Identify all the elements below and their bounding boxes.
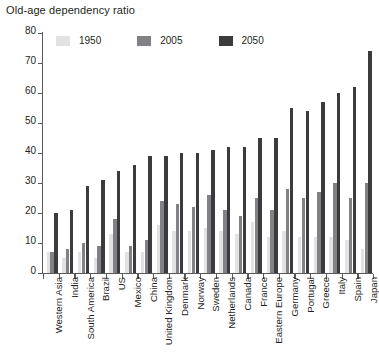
x-axis-label: Spain	[353, 277, 363, 302]
y-axis-tick-label: 10	[25, 236, 36, 246]
bar-group	[200, 33, 216, 273]
y-axis-tick	[38, 63, 42, 64]
y-axis-tick-label: 80	[25, 26, 36, 36]
y-axis-tick-label: 30	[25, 176, 36, 186]
x-axis-label: United Kingdom	[164, 277, 174, 345]
x-axis-label: Mexico	[133, 277, 143, 307]
x-axis-label: South America	[86, 277, 96, 339]
y-axis-tick-label: 60	[25, 86, 36, 96]
bar-2050	[164, 156, 167, 273]
bar-2050	[211, 150, 214, 273]
x-axis-label: Italy	[337, 277, 347, 295]
bar-2050	[274, 138, 277, 273]
bar-group	[247, 33, 263, 273]
bar-2050	[196, 153, 199, 273]
bar-group	[279, 33, 295, 273]
y-axis-tick	[38, 213, 42, 214]
y-axis-tick-label: 40	[25, 146, 36, 156]
y-axis-tick	[38, 273, 42, 274]
y-axis-tick-label: 20	[25, 206, 36, 216]
bar-2050	[54, 213, 57, 273]
bar-2050	[148, 156, 151, 273]
y-axis-tick-label: 50	[25, 116, 36, 126]
bar-2050	[180, 153, 183, 273]
bar-2050	[243, 147, 246, 273]
x-axis-label: Western Asia	[54, 277, 64, 333]
bar-group	[106, 33, 122, 273]
x-axis-label: Eastern Europe	[274, 277, 284, 344]
bar-2050	[321, 102, 324, 273]
x-axis-label: Brazil	[101, 277, 111, 301]
bar-2050	[117, 171, 120, 273]
bar-group	[357, 33, 373, 273]
bar-group	[184, 33, 200, 273]
x-axis-label: Japan	[369, 277, 379, 303]
bar-2050	[227, 147, 230, 273]
plot-area: 01020304050607080	[43, 33, 373, 273]
bar-group	[342, 33, 358, 273]
y-axis-tick	[38, 183, 42, 184]
bar-group	[169, 33, 185, 273]
bar-group	[90, 33, 106, 273]
y-axis-tick-label: 0	[30, 266, 36, 276]
x-axis-label: France	[259, 277, 269, 307]
x-axis-label: India	[70, 277, 80, 298]
bar-2050	[258, 138, 261, 273]
bar-2050	[290, 108, 293, 273]
bar-group	[216, 33, 232, 273]
x-axis-label: Greece	[321, 277, 331, 308]
bar-2050	[337, 93, 340, 273]
bar-2050	[368, 51, 371, 273]
bar-2050	[133, 165, 136, 273]
y-axis-tick	[38, 153, 42, 154]
bar-group	[153, 33, 169, 273]
bar-group	[310, 33, 326, 273]
x-axis-label: Canada	[243, 277, 253, 311]
bar-2050	[353, 87, 356, 273]
bar-2050	[70, 210, 73, 273]
y-axis-tick	[38, 93, 42, 94]
x-axis-label: Norway	[196, 277, 206, 310]
x-axis-label: Netherlands	[227, 277, 237, 329]
y-axis-tick	[38, 33, 42, 34]
y-axis-tick-label: 70	[25, 56, 36, 66]
x-axis-label: China	[149, 277, 159, 302]
y-axis-tick	[38, 123, 42, 124]
bar-group	[294, 33, 310, 273]
chart-figure: Old-age dependency ratio 195020052050 01…	[0, 0, 379, 357]
bar-group	[263, 33, 279, 273]
bar-group	[74, 33, 90, 273]
x-axis-label: Portugal	[306, 277, 316, 313]
x-axis-tick	[43, 274, 44, 279]
bar-group	[43, 33, 59, 273]
x-axis-label: Sweden	[211, 277, 221, 312]
bar-group	[326, 33, 342, 273]
y-axis-tick	[38, 243, 42, 244]
bar-group	[232, 33, 248, 273]
bar-group	[122, 33, 138, 273]
x-axis-label: Denmark	[180, 277, 190, 316]
bar-2050	[101, 180, 104, 273]
chart-title: Old-age dependency ratio	[6, 4, 135, 17]
x-axis-label: US	[117, 277, 127, 290]
bar-group	[137, 33, 153, 273]
x-axis-label: Germany	[290, 277, 300, 316]
bar-2050	[306, 111, 309, 273]
bar-group	[59, 33, 75, 273]
bar-2050	[86, 186, 89, 273]
